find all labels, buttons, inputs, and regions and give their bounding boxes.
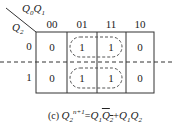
column-variable-label: Q0Q1 <box>22 2 45 17</box>
row-header-1: 1 <box>22 71 36 83</box>
cell-r1-c1: 1 <box>67 63 97 93</box>
cell-r0-c3: 0 <box>125 32 155 62</box>
caption-prefix: (c) <box>48 110 59 121</box>
col-header-01: 01 <box>67 18 97 30</box>
row-header-0: 0 <box>22 40 36 52</box>
col-header-10: 10 <box>125 18 155 30</box>
cell-r0-c2: 1 <box>96 32 126 62</box>
caption: (c) Q2n+1=Q1Q2+Q1Q2 <box>48 108 142 124</box>
col-header-11: 11 <box>96 18 126 30</box>
cell-r1-c0: 0 <box>37 63 67 93</box>
cell-r1-c3: 0 <box>125 63 155 93</box>
cell-r0-c0: 0 <box>37 32 67 62</box>
cell-r1-c2: 1 <box>96 63 126 93</box>
cell-r0-c1: 1 <box>67 32 97 62</box>
row-variable-label: Q2 <box>12 21 23 36</box>
col-header-00: 00 <box>37 18 67 30</box>
